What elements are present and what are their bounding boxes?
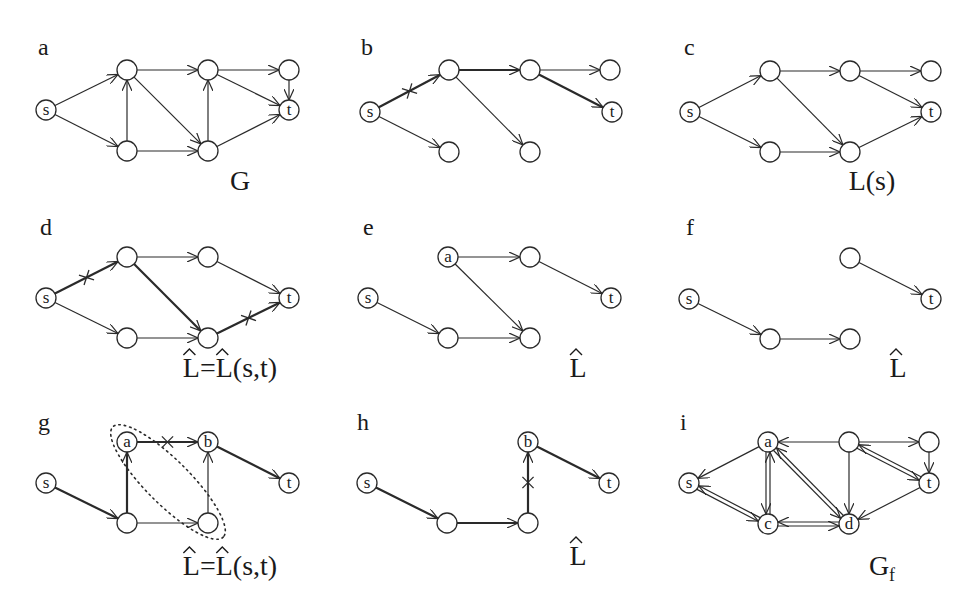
edge-b-t [217,447,280,479]
edges [377,257,602,338]
edges [698,263,922,339]
edges [697,442,929,526]
node [600,60,620,80]
edge-n1-n4 [777,78,843,145]
edge-s-n2 [55,302,118,333]
node [840,142,860,162]
node-label: t [287,100,292,119]
edge-n1-n4 [134,77,201,144]
node [439,142,459,162]
panel-caption: L [569,537,586,571]
node-t: t [919,473,939,493]
caption-text: L [569,352,586,383]
panel-letter: b [361,34,373,60]
node [840,61,860,81]
edges [55,257,280,338]
node-label: t [929,102,934,121]
node-t: t [279,473,299,493]
node [198,141,218,161]
node-label: s [686,473,693,492]
panel-caption: Gf [869,550,895,585]
edges [379,70,603,147]
node-b: b [198,432,218,452]
blocking-set-ellipse [97,411,238,552]
caption-text: G [230,165,250,196]
panel-letter: a [38,34,49,60]
panel-i: isacdtGf [679,409,939,585]
node [520,142,540,162]
edge-s-n2 [55,115,118,147]
node-s: s [679,473,699,493]
node-s: s [360,102,380,122]
node-s: s [36,288,56,308]
panel-caption: G [230,165,250,196]
node-s: s [680,102,700,122]
node-c: c [758,514,778,534]
node [520,247,540,267]
edge-a-s [698,447,759,479]
node-label: s [365,288,372,307]
node [840,329,860,349]
panel-b: bst [360,34,622,162]
panel-letter: i [680,409,687,435]
node-label: t [287,473,292,492]
panel-f: fstL [679,214,941,383]
node-label: a [764,432,772,451]
caption-text: Gf [869,550,895,585]
edge-t-n3 [859,445,921,477]
node-label: s [364,473,371,492]
node [760,61,780,81]
panel-letter: d [40,214,52,240]
edge-n3-t [539,262,602,294]
node [198,247,218,267]
node [840,248,860,268]
panel-letter: e [363,214,374,240]
node [520,60,540,80]
node-label: t [287,288,292,307]
panel-letter: h [357,409,369,435]
node-label: t [607,473,612,492]
caption-text: L=L(s,t) [183,550,277,581]
node-a: a [117,432,137,452]
edge-s-n1 [699,76,761,108]
node-label: a [123,432,131,451]
network-flow-figure: astGbstcstL(s)dstL=L(s,t)esatLfstLgsabtL… [0,0,977,595]
node-t: t [602,102,622,122]
node-label: c [764,514,772,533]
edge-s-n2 [376,487,438,518]
node-t: t [279,288,299,308]
node [117,513,137,533]
blocked-edge-cross-icon [241,310,256,325]
node [117,328,137,348]
edge-s-n2 [379,117,440,148]
panel-letter: c [684,34,695,60]
panel-caption: L=L(s,t) [183,349,277,383]
edge-n1-n4 [134,264,201,331]
node [520,328,540,348]
node [760,142,780,162]
edge-n1-n4 [456,77,523,145]
panel-letter: g [38,409,50,435]
node-label: b [204,432,213,451]
node-t: t [921,289,941,309]
node-label: s [686,289,693,308]
edges [699,71,922,152]
blocked-edge-cross-icon [402,83,417,98]
edge-n4-t [217,115,280,147]
panel-grid: astGbstcstL(s)dstL=L(s,t)esatLfstLgsabtL… [36,34,941,585]
edge-s-n2 [55,487,118,518]
caption-text: L(s) [849,165,896,196]
node [919,432,939,452]
edge-n3-t [859,263,922,295]
panel-caption: L [569,349,586,383]
panel-a: astG [36,34,299,196]
node-label: s [43,473,50,492]
node [760,329,780,349]
edge-s-n2 [698,303,761,334]
node [921,61,941,81]
edges [55,436,280,523]
node-t: t [279,100,299,120]
edges [55,70,289,151]
node-s: s [36,473,56,493]
panel-caption: L=L(s,t) [183,547,277,581]
